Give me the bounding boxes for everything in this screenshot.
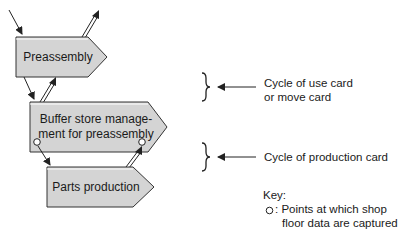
key-symbol <box>265 203 274 217</box>
incoming-arrow <box>9 10 22 34</box>
annotation-production-card: Cycle of production card <box>264 150 388 164</box>
brace-production-card <box>202 143 210 171</box>
node-buffer-label-line1: Buffer store manage- <box>30 112 162 127</box>
key-title: Key: <box>263 188 286 202</box>
node-buffer-label-line2: ment for preassembly <box>30 127 162 142</box>
arrow-preassembly-to-buffer <box>24 77 34 99</box>
brace-use-card <box>202 73 210 101</box>
outgoing-double-arrow <box>82 10 99 38</box>
key-line2: floor data are captured <box>282 216 398 230</box>
annotation-use-card-line1: Cycle of use card <box>264 76 353 90</box>
key-line1: : Points at which shop <box>275 202 387 216</box>
node-preassembly-label: Preassembly <box>16 50 100 65</box>
node-parts-label: Parts production <box>47 180 145 195</box>
capture-point-icon <box>265 206 274 215</box>
annotation-use-card-line2: or move card <box>264 90 331 104</box>
arrow-buffer-to-preassembly <box>40 77 56 103</box>
